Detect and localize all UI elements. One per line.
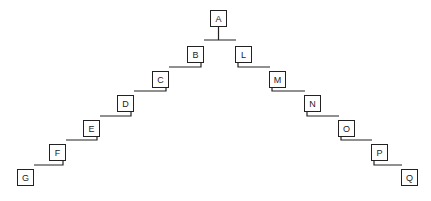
node-label: Q — [406, 173, 413, 183]
node-label: M — [274, 75, 282, 85]
node-label: B — [192, 50, 198, 60]
node-c: C — [152, 71, 169, 88]
tree-connectors — [0, 0, 431, 201]
node-b: B — [187, 46, 204, 63]
node-label: G — [22, 173, 29, 183]
node-q: Q — [401, 169, 418, 186]
node-f: F — [49, 144, 66, 161]
node-label: O — [343, 124, 350, 134]
node-label: P — [376, 148, 382, 158]
node-label: E — [88, 124, 94, 134]
node-l: L — [235, 46, 252, 63]
node-o: O — [338, 120, 355, 137]
node-p: P — [371, 144, 388, 161]
node-label: A — [215, 14, 221, 24]
node-label: F — [55, 148, 61, 158]
node-n: N — [304, 95, 321, 112]
node-label: L — [241, 50, 246, 60]
node-d: D — [117, 95, 134, 112]
node-m: M — [269, 71, 286, 88]
node-label: N — [309, 99, 316, 109]
node-e: E — [83, 120, 100, 137]
node-a: A — [210, 10, 227, 27]
node-label: C — [157, 75, 164, 85]
node-label: D — [122, 99, 129, 109]
node-g: G — [17, 169, 34, 186]
